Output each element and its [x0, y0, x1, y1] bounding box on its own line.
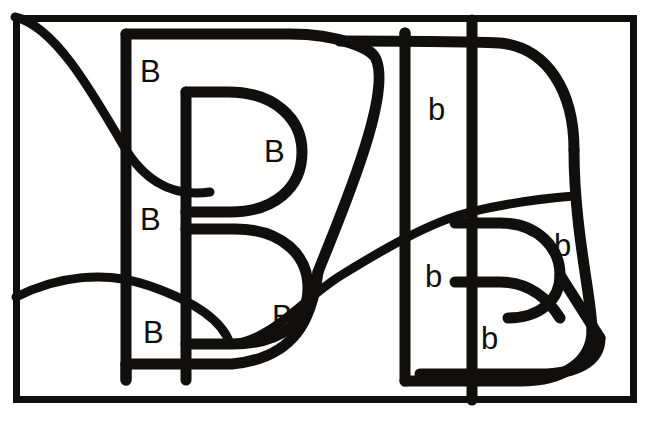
region-label-B-5: B	[143, 317, 164, 348]
figure-canvas: B B B B B b b b b	[0, 0, 651, 425]
region-label-b-3: b	[425, 261, 442, 292]
uppercase-b-upper-bowl	[318, 52, 379, 272]
uppercase-b-top-arm	[126, 34, 370, 52]
outer-border-rect	[17, 19, 634, 400]
region-label-B-2: B	[264, 136, 285, 167]
lowercase-b-inner-bottom-sweep	[420, 338, 600, 374]
region-label-b-2: b	[554, 230, 571, 261]
line-drawing-svg	[0, 0, 651, 425]
region-label-B-1: B	[140, 56, 161, 87]
region-label-B-4: B	[272, 301, 293, 332]
region-label-b-1: b	[428, 94, 445, 125]
region-label-B-3: B	[140, 204, 161, 235]
region-label-b-4: b	[481, 323, 498, 354]
